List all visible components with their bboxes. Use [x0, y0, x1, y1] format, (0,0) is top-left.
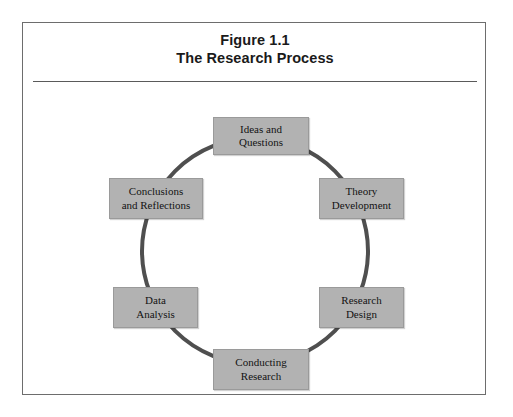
stage-box-theory-development[interactable]: Theory Development — [319, 178, 404, 219]
stage-label-line-1: Ideas and — [240, 123, 282, 137]
stage-label-line-2: and Reflections — [122, 199, 191, 213]
figure-title: Figure 1.1 The Research Process — [23, 31, 487, 67]
stage-label-line-2: Research — [241, 370, 281, 384]
stage-box-conclusions-and-reflections[interactable]: Conclusions and Reflections — [109, 178, 203, 219]
stage-label-line-1: Data — [145, 294, 166, 308]
stage-box-research-design[interactable]: Research Design — [319, 287, 404, 328]
stage-box-data-analysis[interactable]: Data Analysis — [113, 287, 198, 328]
stage-label-line-1: Conducting — [235, 356, 286, 370]
figure-caption-label: The Research Process — [23, 49, 487, 67]
stage-box-ideas-and-questions[interactable]: Ideas and Questions — [213, 117, 309, 155]
stage-label-line-1: Research — [341, 294, 381, 308]
figure-root: Figure 1.1 The Research Process Ideas an… — [0, 0, 513, 417]
stage-box-conducting-research[interactable]: Conducting Research — [213, 349, 309, 390]
stage-label-line-2: Design — [346, 308, 377, 322]
figure-border-frame: Figure 1.1 The Research Process Ideas an… — [22, 22, 486, 395]
stage-label-line-2: Development — [332, 199, 391, 213]
cycle-ring-circle — [142, 138, 368, 364]
figure-number-label: Figure 1.1 — [23, 31, 487, 49]
stage-label-line-1: Conclusions — [129, 185, 183, 199]
research-process-cycle-diagram: Ideas and Questions Theory Development R… — [23, 82, 487, 395]
stage-label-line-2: Analysis — [136, 308, 175, 322]
stage-label-line-1: Theory — [346, 185, 378, 199]
stage-label-line-2: Questions — [239, 136, 283, 150]
